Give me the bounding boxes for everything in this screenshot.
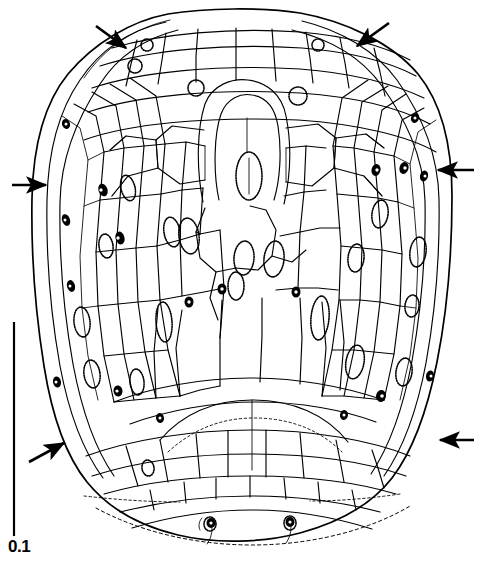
arrow-bottom-left (29, 443, 64, 462)
specimen-illustration: .o {fill:none;stroke:#000;stroke-width:1… (0, 0, 481, 568)
apical-keyhole-cell (198, 80, 289, 204)
arrow-top-right (357, 23, 389, 46)
marginal-stomata (52, 112, 435, 424)
epidermal-cell-network (62, 28, 436, 545)
scale-bar-label: 0.1 (8, 538, 30, 555)
figure-root: .o {fill:none;stroke:#000;stroke-width:1… (0, 0, 481, 568)
basal-dashed-margin (96, 506, 410, 545)
specimen-body (12, 9, 474, 545)
